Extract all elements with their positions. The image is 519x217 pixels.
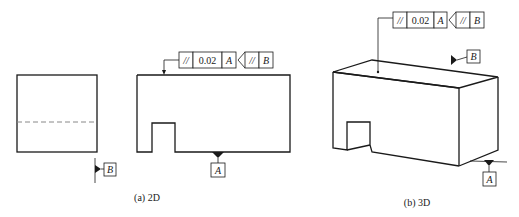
feature-control-frame-3d: // 0.02 A // B bbox=[377, 12, 484, 73]
datum-reference: B bbox=[263, 55, 269, 66]
arrowhead-icon bbox=[162, 70, 166, 75]
gdt-diagram: B A // 0.02 A // B (a) 2D bbox=[0, 0, 519, 217]
front-view-2d bbox=[137, 75, 290, 152]
datum-b-label: B bbox=[470, 51, 476, 62]
datum-triangle-icon bbox=[95, 165, 101, 173]
datum-reference: A bbox=[225, 55, 233, 66]
leader-line bbox=[164, 60, 179, 72]
tolerance-value: 0.02 bbox=[412, 15, 430, 26]
leader-dot-icon bbox=[377, 71, 379, 73]
top-face bbox=[333, 60, 498, 88]
datum-triangle-icon bbox=[451, 55, 457, 65]
datum-b-label: B bbox=[107, 164, 113, 175]
frame-connector-icon bbox=[449, 12, 456, 28]
feature-control-frame-2d: // 0.02 A // B bbox=[162, 52, 273, 75]
datum-triangle-icon bbox=[484, 160, 494, 166]
datum-b-2d: B bbox=[95, 158, 116, 183]
datum-b-3d: B bbox=[451, 50, 480, 65]
caption-3d: (b) 3D bbox=[404, 197, 430, 209]
right-face bbox=[459, 77, 498, 166]
caption-2d: (a) 2D bbox=[134, 192, 160, 204]
datum-triangle-icon bbox=[212, 152, 224, 158]
datum-a-label: A bbox=[485, 174, 493, 185]
datum-a-label: A bbox=[214, 165, 222, 176]
tolerance-value: 0.02 bbox=[199, 55, 217, 66]
datum-reference: A bbox=[436, 15, 444, 26]
datum-reference: B bbox=[474, 15, 480, 26]
side-view-2d bbox=[17, 75, 97, 152]
frame-connector-icon bbox=[238, 52, 245, 68]
datum-a-2d: A bbox=[211, 152, 225, 177]
datum-a-3d: A bbox=[470, 160, 507, 186]
isometric-block-3d bbox=[333, 60, 498, 166]
leader-line bbox=[378, 18, 393, 72]
